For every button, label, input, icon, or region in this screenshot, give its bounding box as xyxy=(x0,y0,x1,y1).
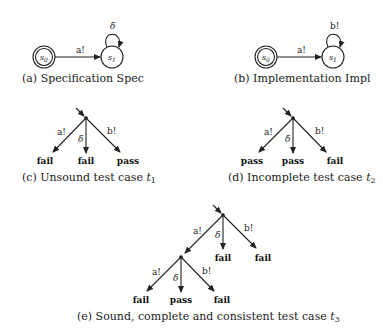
verdict-leaf: pass xyxy=(282,156,304,166)
test-case-t3: a! δ b! fail fail a! δ b! fail pass fail… xyxy=(77,205,340,324)
self-loop-label: b! xyxy=(330,21,339,31)
transition-label: a! xyxy=(297,45,306,55)
edge-label-a: a! xyxy=(152,267,161,277)
state-s1-label: s1 xyxy=(329,53,337,63)
verdict-leaf: fail xyxy=(215,253,232,263)
initial-arrow xyxy=(76,108,84,116)
edge-label-delta: δ xyxy=(78,134,83,144)
impl-automaton: s0 s1 a! b! (b) Implementation Impl xyxy=(234,21,371,85)
verdict-leaf: fail xyxy=(214,295,231,305)
spec-automaton: s0 s1 a! δ (a) Specification Spec xyxy=(22,21,144,85)
self-loop-arrow xyxy=(106,34,120,47)
edge-label-delta: δ xyxy=(173,273,178,283)
verdict-leaf: pass xyxy=(170,295,192,305)
verdict-leaf: fail xyxy=(78,156,95,166)
initial-arrow xyxy=(283,108,291,116)
edge-label-b: b! xyxy=(244,223,253,233)
edge-label-b: b! xyxy=(315,126,324,136)
edge-label-a: a! xyxy=(193,226,202,236)
edge-label-b: b! xyxy=(202,266,211,276)
caption-c: (c) Unsound test case t1 xyxy=(22,171,156,185)
transition-label: a! xyxy=(76,45,85,55)
figure-canvas: s0 s1 a! δ (a) Specification Spec s0 s1 … xyxy=(0,0,383,336)
state-s0-label: s0 xyxy=(40,53,48,63)
verdict-leaf: fail xyxy=(133,295,150,305)
test-case-t2: a! δ b! pass pass fail (d) Incomplete te… xyxy=(228,108,376,185)
test-case-t1: a! δ b! fail fail pass (c) Unsound test … xyxy=(22,108,156,185)
edge-label-a: a! xyxy=(264,127,273,137)
initial-arrow xyxy=(213,205,221,213)
caption-e: (e) Sound, complete and consistent test … xyxy=(77,310,340,324)
edge-label-a: a! xyxy=(57,127,66,137)
self-loop-arrow xyxy=(327,34,341,47)
verdict-leaf: fail xyxy=(37,156,54,166)
caption-a: (a) Specification Spec xyxy=(22,72,144,85)
verdict-leaf: pass xyxy=(241,156,263,166)
caption-b: (b) Implementation Impl xyxy=(234,72,371,85)
verdict-leaf: fail xyxy=(327,156,344,166)
caption-d: (d) Incomplete test case t2 xyxy=(228,171,376,185)
edge-label-delta: δ xyxy=(215,230,220,240)
verdict-leaf: fail xyxy=(255,253,272,263)
verdict-leaf: pass xyxy=(117,156,139,166)
state-s0-label: s0 xyxy=(262,53,270,63)
edge-label-delta: δ xyxy=(285,134,290,144)
state-s1-label: s1 xyxy=(108,53,116,63)
self-loop-label: δ xyxy=(110,21,115,31)
edge-label-b: b! xyxy=(107,126,116,136)
